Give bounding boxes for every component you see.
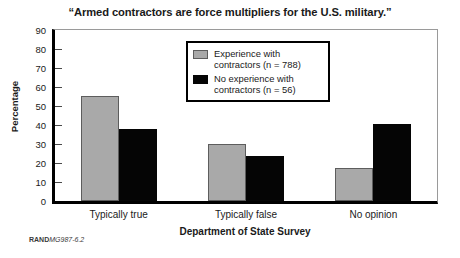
x-axis-title: Department of State Survey	[52, 226, 438, 237]
gray-swatch-icon	[193, 50, 208, 59]
y-axis-tick-label: 20	[20, 158, 46, 169]
legend-item-label: No experience with contractors (n = 56)	[214, 73, 296, 95]
bar-no-experience	[246, 156, 284, 201]
legend-item: No experience with contractors (n = 56)	[193, 73, 322, 95]
footnote: RANDMG987-6.2	[29, 236, 84, 243]
x-axis-tick-label: Typically false	[176, 209, 316, 220]
x-axis-tick-label: Typically true	[49, 209, 189, 220]
black-swatch-icon	[193, 75, 208, 84]
y-axis-title: Percentage	[9, 72, 20, 142]
y-axis-tick	[55, 163, 62, 164]
legend-item: Experience with contractors (n = 788)	[193, 48, 322, 70]
y-axis-tick-label: 70	[20, 63, 46, 74]
y-axis-tick-label: 90	[20, 25, 46, 36]
legend-label-line1: Experience with	[214, 48, 280, 59]
y-axis-tick-label: 50	[20, 101, 46, 112]
y-axis-tick-label: 80	[20, 44, 46, 55]
bar-no-experience	[373, 124, 411, 201]
legend-label-line2: contractors (n = 788)	[214, 59, 301, 70]
chart-title: “Armed contractors are force multipliers…	[0, 6, 460, 18]
y-axis-tick	[55, 125, 62, 126]
footnote-source: RAND	[29, 236, 49, 243]
legend-item-label: Experience with contractors (n = 788)	[214, 48, 301, 70]
y-axis-tick	[55, 182, 62, 183]
y-axis-tick-label: 60	[20, 82, 46, 93]
y-axis-tick	[55, 68, 62, 69]
bar-chart-figure: “Armed contractors are force multipliers…	[0, 0, 460, 258]
bar-no-experience	[119, 129, 157, 201]
chart-legend: Experience with contractors (n = 788) No…	[186, 41, 330, 102]
y-axis-tick-label: 40	[20, 120, 46, 131]
y-axis-tick-label: 10	[20, 177, 46, 188]
y-axis-tick-labels: 0102030405060708090	[20, 29, 46, 201]
bar-experience	[81, 96, 119, 201]
x-axis-tick-label: No opinion	[303, 209, 443, 220]
y-axis-tick	[55, 106, 62, 107]
legend-label-line2: contractors (n = 56)	[214, 84, 296, 95]
y-axis-tick	[55, 49, 62, 50]
bar-experience	[208, 144, 246, 201]
y-axis-tick-label: 30	[20, 139, 46, 150]
bar-experience	[335, 168, 373, 201]
y-axis-tick	[55, 144, 62, 145]
y-axis-tick	[55, 87, 62, 88]
footnote-document-id: MG987-6.2	[49, 236, 84, 243]
legend-label-line1: No experience with	[214, 73, 294, 84]
y-axis-tick-label: 0	[20, 196, 46, 207]
